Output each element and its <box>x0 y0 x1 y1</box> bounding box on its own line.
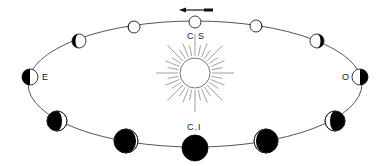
planet-cs <box>189 16 201 28</box>
label-superior-conjunction: C S <box>187 31 205 41</box>
planet-phases-diagram <box>0 0 390 166</box>
planet-top-right-2 <box>310 34 324 48</box>
sun-icon <box>156 34 234 112</box>
planet-o <box>352 69 368 85</box>
planet-bottom-left-1 <box>47 111 67 131</box>
planet-top-right-1 <box>250 20 262 32</box>
label-inferior-conjunction: C.I <box>187 122 202 132</box>
planet-e <box>22 69 38 85</box>
planet-bottom-right-1 <box>325 111 345 131</box>
planet-ci <box>182 135 208 161</box>
planet-bottom-left-2 <box>114 129 138 153</box>
direction-arrow-icon <box>179 8 213 13</box>
planet-top-left-1 <box>128 21 140 33</box>
planet-bottom-right-2 <box>254 129 278 153</box>
label-west-elongation: O <box>342 72 350 82</box>
planet-top-left-2 <box>72 34 86 48</box>
label-east-elongation: E <box>42 72 49 82</box>
